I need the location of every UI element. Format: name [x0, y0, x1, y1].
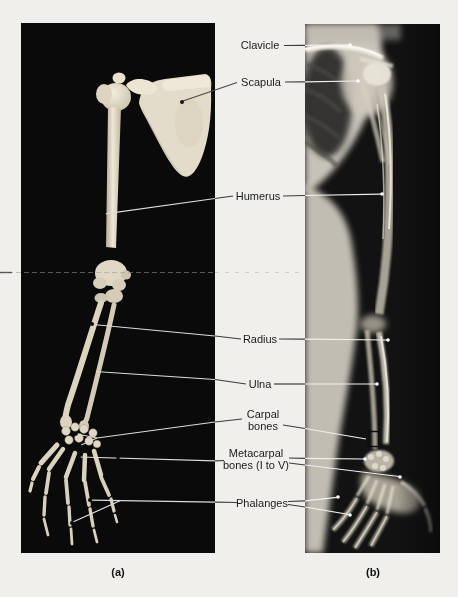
label-carpal-bones: Carpal bones: [247, 408, 279, 432]
label-metacarpal-line2: bones (I to V): [223, 459, 289, 471]
arm-xray-illustration: [305, 24, 440, 553]
label-clavicle: Clavicle: [241, 39, 280, 51]
phalanges-shapes: [44, 473, 117, 544]
arm-bones-illustration: [21, 23, 215, 553]
thumb-shapes: [30, 445, 57, 491]
acromion-shape: [126, 79, 157, 95]
label-radius: Radius: [243, 333, 277, 345]
label-carpal-line1: Carpal: [247, 408, 279, 420]
textbook-figure-upper-limb: Clavicle Scapula Humerus Radius Ulna Car…: [0, 0, 458, 597]
photo-panel-arm-bones: [21, 23, 215, 553]
xray-panel-arm: [305, 24, 440, 553]
label-metacarpal-line1: Metacarpal: [223, 447, 289, 459]
ulna-shape: [84, 305, 114, 427]
label-ulna: Ulna: [249, 378, 272, 390]
label-scapula: Scapula: [241, 76, 281, 88]
label-phalanges: Phalanges: [236, 497, 288, 509]
caption-panel-b: (b): [366, 566, 380, 578]
humerus-shape: [106, 107, 121, 248]
radius-shape: [65, 303, 101, 422]
caption-panel-a: (a): [111, 566, 124, 578]
metacarpal-shapes: [49, 449, 101, 480]
label-metacarpal-bones: Metacarpal bones (I to V): [223, 447, 289, 471]
label-humerus: Humerus: [236, 190, 281, 202]
label-carpal-line2: bones: [247, 420, 279, 432]
